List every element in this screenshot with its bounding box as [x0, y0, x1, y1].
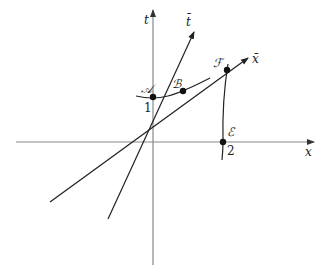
x-tick-two: 2: [227, 144, 235, 158]
point-E: [220, 139, 226, 145]
point-E-label: ℰ: [227, 125, 236, 139]
x-axis-label: x: [305, 145, 312, 159]
point-F-label: ℱ: [213, 56, 225, 70]
xbar-axis: [50, 58, 248, 202]
tbar-axis: [108, 32, 194, 219]
spacetime-diagram: t x t̄ x̄ 𝒜 ℬ ℱ ℰ 1 2: [0, 0, 329, 276]
point-F: [224, 67, 230, 73]
tbar-axis-label: t̄: [186, 13, 192, 29]
t-axis-label: t: [144, 13, 149, 27]
xbar-axis-label: x̄: [252, 52, 259, 66]
t-tick-one: 1: [144, 101, 152, 115]
